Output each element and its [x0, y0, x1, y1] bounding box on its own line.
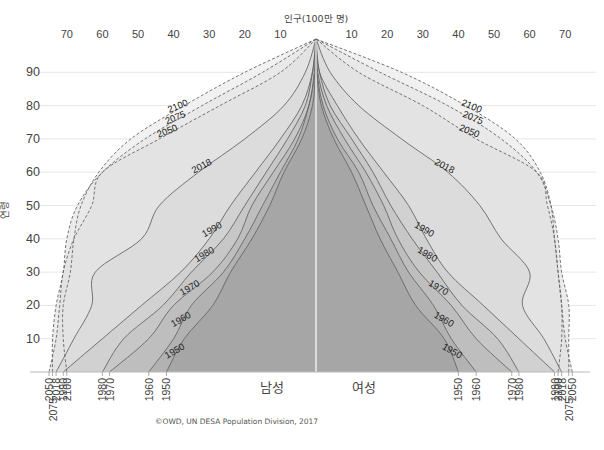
pyramid-areas: [49, 39, 572, 372]
y-axis-title: 연령: [0, 201, 10, 219]
y-tick: 10: [26, 332, 40, 346]
top-tick-left: 40: [167, 28, 179, 40]
baseline-year-labels: 2050207520181990210019801970196019501950…: [43, 372, 578, 421]
top-tick-right: 70: [559, 28, 571, 40]
top-tick-right: 20: [381, 28, 393, 40]
male-label: 남성: [260, 380, 284, 395]
baseline-label-left: 1960: [143, 378, 155, 402]
top-axis-title: 인구(100만 명): [284, 13, 349, 24]
top-tick-left: 30: [203, 28, 215, 40]
top-tick-right: 50: [488, 28, 500, 40]
source-credit: ©OWD, UN DESA Population Division, 2017: [155, 417, 318, 426]
top-tick-left: 70: [61, 28, 73, 40]
baseline-label-left: 2100: [61, 378, 73, 402]
y-tick: 30: [26, 265, 40, 279]
baseline-label-left: 1950: [160, 378, 172, 402]
population-pyramid-chart: 7060504030201010203040506070 인구(100만 명) …: [0, 0, 604, 450]
top-axis-ticks: 7060504030201010203040506070: [61, 28, 572, 40]
y-tick: 40: [26, 232, 40, 246]
baseline-label-right: 1950: [452, 378, 464, 402]
y-tick: 90: [26, 65, 40, 79]
top-tick-left: 10: [274, 28, 286, 40]
top-tick-left: 60: [96, 28, 108, 40]
top-tick-right: 10: [345, 28, 357, 40]
y-tick: 80: [26, 99, 40, 113]
baseline-label-right: 2050: [566, 378, 578, 402]
baseline-label-right: 1960: [470, 378, 482, 402]
top-tick-left: 50: [132, 28, 144, 40]
y-tick: 20: [26, 298, 40, 312]
top-tick-right: 30: [417, 28, 429, 40]
y-tick: 50: [26, 199, 40, 213]
top-tick-right: 40: [452, 28, 464, 40]
baseline-label-right: 1980: [513, 378, 525, 402]
y-tick: 60: [26, 165, 40, 179]
y-axis-ticks: 908070605040302010: [26, 65, 40, 345]
y-tick: 70: [26, 132, 40, 146]
top-tick-right: 60: [523, 28, 535, 40]
female-label: 여성: [352, 380, 376, 395]
top-tick-left: 20: [239, 28, 251, 40]
baseline-label-left: 1970: [104, 378, 116, 402]
